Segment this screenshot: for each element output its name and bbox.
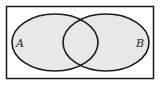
- venn-diagram: A B: [0, 0, 160, 86]
- set-a-label: A: [15, 37, 24, 50]
- set-b-label: B: [135, 37, 144, 50]
